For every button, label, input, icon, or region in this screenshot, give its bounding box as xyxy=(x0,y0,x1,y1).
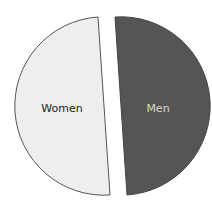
slice-label-men: Men xyxy=(146,102,169,115)
slice-label-women: Women xyxy=(41,102,82,115)
pie-chart: Women Men xyxy=(0,0,212,212)
